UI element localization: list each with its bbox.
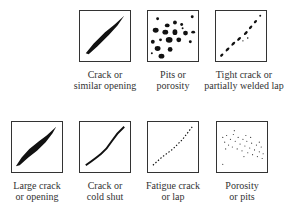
caption-tight-crack: Tight crack or partially welded lap [196,69,292,91]
crack-indication-icon [80,11,130,61]
porosity-indication-icon [217,122,267,172]
panel-pits [147,10,199,62]
panel-porosity [216,121,268,173]
panel-fatigue [147,121,199,173]
panel-crack [79,10,131,62]
panel-cold-shut [79,121,131,173]
panel-tight-crack [215,10,267,62]
tight-crack-indication-icon [216,11,266,61]
panel-large-crack [11,121,63,173]
large-crack-indication-icon [12,122,62,172]
caption-porosity: Porosity or pits [197,180,287,202]
pits-indication-icon [148,11,198,61]
fatigue-crack-indication-icon [148,122,198,172]
cold-shut-indication-icon [80,122,130,172]
